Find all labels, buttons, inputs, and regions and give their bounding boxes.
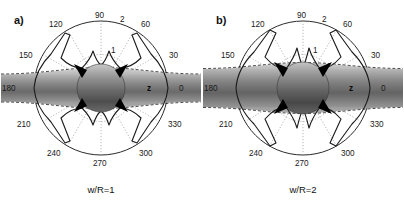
angle-label-120-a: 120: [49, 20, 63, 29]
panel-b-caption: w/R=2: [202, 184, 404, 195]
angle-label-180-a: 180: [2, 84, 16, 93]
angle-label-120-b: 120: [251, 20, 265, 29]
angle-label-240-a: 240: [47, 149, 61, 158]
angle-label-240-b: 240: [249, 149, 263, 158]
panel-a-caption: w/R=1: [0, 184, 202, 195]
angle-label-270-b: 270: [295, 159, 309, 168]
angle-label-0-a: 0: [179, 84, 184, 93]
angle-label-60-b: 60: [343, 20, 353, 29]
radial-tick-1-a: 1: [111, 46, 116, 55]
figure-container: a): [0, 0, 404, 209]
angle-label-210-a: 210: [17, 120, 31, 129]
angle-label-150-b: 150: [221, 51, 235, 60]
angle-label-60-a: 60: [141, 20, 151, 29]
angle-label-90-b: 90: [297, 11, 307, 20]
panel-a-plot: z 1 2 0 30 60 90 120 150 180 210 240 270…: [1, 8, 201, 168]
angle-label-30-b: 30: [371, 51, 381, 60]
angle-label-300-b: 300: [341, 149, 355, 158]
angle-label-330-a: 330: [168, 120, 182, 129]
angle-label-270-a: 270: [93, 159, 107, 168]
radial-tick-2-b: 2: [322, 15, 327, 24]
panel-b-plot: z 1 2 0 30 60 90 120 150 180 210 240 270…: [203, 8, 403, 168]
panel-b: b): [202, 0, 404, 209]
angle-label-330-b: 330: [370, 120, 384, 129]
polar-plot-a: z 1 2 0 30 60 90 120 150 180 210 240 270…: [1, 8, 201, 168]
z-axis-label-b: z: [349, 84, 353, 93]
angle-label-210-b: 210: [219, 120, 233, 129]
panel-a: a): [0, 0, 202, 209]
radial-tick-1-b: 1: [313, 46, 318, 55]
polar-plot-b: z 1 2 0 30 60 90 120 150 180 210 240 270…: [203, 8, 403, 168]
angle-label-300-a: 300: [139, 149, 153, 158]
radial-tick-2-a: 2: [120, 15, 125, 24]
angle-label-0-b: 0: [381, 84, 386, 93]
angle-label-150-a: 150: [19, 51, 33, 60]
angle-label-90-a: 90: [95, 11, 105, 20]
angle-label-30-a: 30: [169, 51, 179, 60]
z-axis-label-a: z: [147, 84, 151, 93]
angle-label-180-b: 180: [204, 84, 218, 93]
